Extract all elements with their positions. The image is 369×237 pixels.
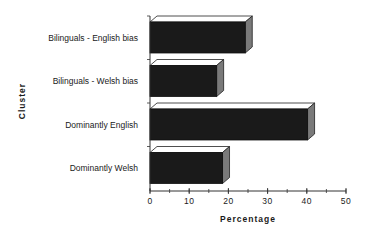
bar-top-face (150, 60, 224, 66)
x-tick-label: 50 (341, 196, 351, 206)
bars-group (150, 16, 315, 184)
bar-chart: Bilinguals - English biasBilinguals - We… (0, 0, 369, 237)
bar-front-face (150, 66, 217, 97)
bar (150, 60, 224, 97)
bar-side-face (245, 16, 252, 53)
bar-front-face (150, 109, 308, 140)
bar-front-face (150, 153, 223, 184)
bar-side-face (308, 103, 315, 140)
bar-top-face (150, 103, 315, 109)
x-tick-label: 20 (223, 196, 233, 206)
bar (150, 103, 315, 140)
bar-side-face (217, 60, 224, 97)
x-axis: 01020304050 (147, 188, 351, 206)
x-tick-label: 30 (262, 196, 272, 206)
x-axis-title: Percentage (220, 214, 276, 224)
y-axis: Bilinguals - English biasBilinguals - We… (48, 16, 150, 191)
category-label: Dominantly English (65, 120, 138, 130)
category-label: Dominantly Welsh (70, 163, 139, 173)
x-tick-label: 40 (302, 196, 312, 206)
bar (150, 16, 252, 53)
x-tick-label: 10 (184, 196, 194, 206)
category-label: Bilinguals - Welsh bias (53, 76, 138, 86)
bar-top-face (150, 147, 230, 153)
category-label: Bilinguals - English bias (48, 33, 138, 43)
x-tick-label: 0 (147, 196, 152, 206)
bar-top-face (150, 16, 252, 22)
bar-side-face (223, 147, 230, 184)
y-axis-title: Cluster (17, 83, 27, 119)
bar-front-face (150, 22, 245, 53)
bar (150, 147, 230, 184)
